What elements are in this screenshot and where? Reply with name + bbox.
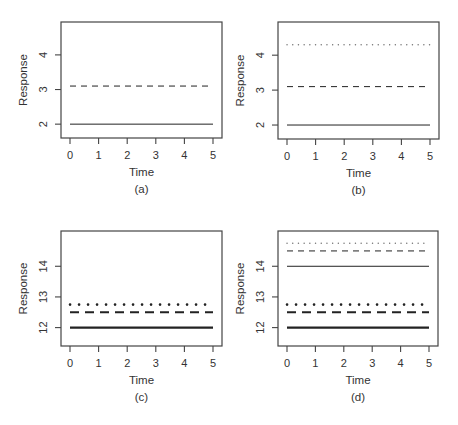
x-tick-label: 4 bbox=[181, 149, 187, 161]
x-tick-label: 5 bbox=[210, 357, 216, 369]
x-axis: 012345 bbox=[284, 139, 433, 162]
plot-frame bbox=[278, 22, 439, 139]
x-tick-label: 5 bbox=[427, 150, 433, 162]
y-axis-title: Response bbox=[17, 263, 29, 315]
plot-frame bbox=[61, 22, 222, 138]
y-axis: 234 bbox=[37, 52, 61, 127]
y-tick-label: 2 bbox=[254, 122, 266, 128]
y-tick-label: 12 bbox=[37, 321, 49, 333]
y-axis: 121314 bbox=[37, 260, 61, 334]
x-tick-label: 4 bbox=[398, 150, 404, 162]
x-tick-label: 2 bbox=[124, 357, 130, 369]
panel-caption: (d) bbox=[351, 391, 365, 403]
panel-caption: (c) bbox=[135, 391, 149, 403]
y-tick-label: 13 bbox=[37, 291, 49, 303]
x-tick-label: 2 bbox=[341, 357, 347, 369]
x-tick-label: 2 bbox=[124, 149, 130, 161]
x-tick-label: 2 bbox=[341, 150, 347, 162]
x-tick-label: 3 bbox=[370, 150, 376, 162]
x-tick-label: 0 bbox=[284, 150, 290, 162]
panel-caption: (a) bbox=[134, 183, 148, 195]
x-axis-title: Time bbox=[345, 374, 370, 386]
y-tick-label: 12 bbox=[254, 321, 266, 333]
y-tick-label: 14 bbox=[37, 260, 49, 272]
panel-a: 012345234TimeResponse(a) bbox=[17, 22, 222, 195]
x-tick-label: 1 bbox=[96, 149, 102, 161]
plot-frame bbox=[61, 231, 222, 346]
x-axis: 012345 bbox=[67, 346, 216, 369]
x-tick-label: 0 bbox=[284, 357, 290, 369]
x-tick-label: 1 bbox=[96, 357, 102, 369]
x-axis-title: Time bbox=[346, 167, 371, 179]
y-axis: 234 bbox=[254, 52, 278, 128]
y-tick-label: 4 bbox=[37, 52, 49, 58]
y-axis-title: Response bbox=[234, 263, 246, 315]
y-tick-label: 13 bbox=[254, 291, 266, 303]
x-axis-title: Time bbox=[129, 166, 154, 178]
x-axis: 012345 bbox=[67, 138, 216, 161]
figure-canvas: 012345234TimeResponse(a) 012345234TimeRe… bbox=[0, 0, 458, 425]
y-tick-label: 2 bbox=[37, 121, 49, 127]
x-tick-label: 4 bbox=[398, 357, 404, 369]
y-tick-label: 3 bbox=[37, 86, 49, 92]
x-tick-label: 0 bbox=[67, 357, 73, 369]
x-tick-label: 5 bbox=[210, 149, 216, 161]
y-axis-title: Response bbox=[234, 55, 246, 107]
x-tick-label: 1 bbox=[312, 357, 318, 369]
x-tick-label: 5 bbox=[426, 357, 432, 369]
x-axis: 012345 bbox=[284, 346, 432, 369]
figure: 012345234TimeResponse(a) 012345234TimeRe… bbox=[0, 0, 458, 425]
x-tick-label: 0 bbox=[67, 149, 73, 161]
x-tick-label: 4 bbox=[181, 357, 187, 369]
y-tick-label: 4 bbox=[254, 52, 266, 58]
x-axis-title: Time bbox=[129, 374, 154, 386]
y-axis: 121314 bbox=[254, 260, 278, 334]
panel-c: 012345121314TimeResponse(c) bbox=[17, 231, 222, 403]
y-axis-title: Response bbox=[17, 54, 29, 106]
x-tick-label: 1 bbox=[313, 150, 319, 162]
panel-caption: (b) bbox=[351, 184, 365, 196]
panel-b: 012345234TimeResponse(b) bbox=[234, 22, 439, 196]
x-tick-label: 3 bbox=[153, 357, 159, 369]
x-tick-label: 3 bbox=[153, 149, 159, 161]
y-tick-label: 3 bbox=[254, 87, 266, 93]
y-tick-label: 14 bbox=[254, 260, 266, 272]
panel-d: 012345121314TimeResponse(d) bbox=[234, 231, 438, 403]
plot-frame bbox=[278, 231, 438, 346]
x-tick-label: 3 bbox=[369, 357, 375, 369]
